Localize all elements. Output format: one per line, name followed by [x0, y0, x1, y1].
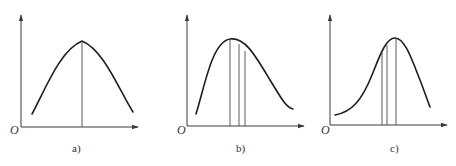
origin-label: O [10, 123, 19, 137]
bell-curve [32, 41, 133, 114]
panel-caption: b) [236, 142, 246, 155]
skewed-curve [196, 39, 293, 114]
panel-a: O a) [10, 15, 138, 155]
origin-label: O [321, 123, 330, 137]
distribution-shapes-figure: O a) O b) O c) [0, 0, 456, 166]
panel-b: O b) [177, 15, 304, 155]
panel-caption: c) [390, 142, 399, 155]
origin-label: O [177, 123, 186, 137]
panel-c: O c) [321, 15, 447, 155]
skewed-curve [335, 38, 430, 115]
panel-caption: a) [72, 142, 81, 155]
